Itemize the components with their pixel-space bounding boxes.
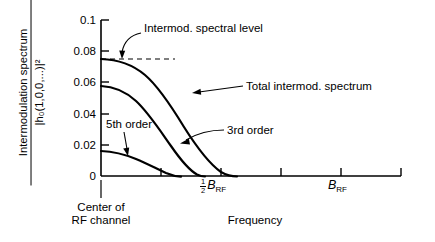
curve-5th-order	[101, 151, 181, 177]
curve-3rd-order	[101, 86, 205, 177]
y-tick-label-3: 0.06	[74, 76, 96, 88]
annotation-3rd-order: 3rd order	[227, 124, 274, 136]
annotation-5th-order: 5th order	[106, 118, 152, 130]
y-tick-label-2: 0.04	[74, 108, 97, 120]
leader-5th-order	[124, 132, 127, 149]
arrowhead-intermod-spectral-level	[119, 51, 125, 60]
y-tick-label-4: 0.08	[74, 45, 96, 57]
arrowhead-total-intermod-spectrum	[192, 89, 201, 95]
x-axis-title: Frequency	[228, 214, 283, 226]
y-tick-label-5: 0.1	[80, 14, 96, 26]
y-tick-label-1: 0.02	[74, 139, 96, 151]
x-origin-label-line2: RF channel	[72, 214, 131, 226]
annotation-intermod-spectral-level: Intermod. spectral level	[144, 22, 263, 34]
arrowhead-3rd-order	[180, 139, 190, 145]
x-origin-label-line1: Center of	[77, 201, 125, 213]
leader-total-intermod-spectrum	[199, 86, 243, 92]
y-tick-label-0: 0	[90, 170, 96, 182]
annotation-total-intermod-spectrum: Total intermod. spectrum	[246, 80, 372, 92]
chart-svg: 0.1 0.08 0.06 0.04 0.02 0 Intermod. spec…	[0, 0, 435, 242]
leader-intermod-spectral-level	[122, 33, 141, 52]
figure-container: Intermodulation spectrum |h₀(1,0,0,...)|…	[0, 0, 435, 242]
